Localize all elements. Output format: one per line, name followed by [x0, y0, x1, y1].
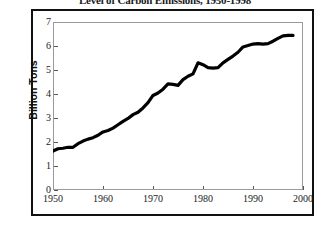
x-tick-mark-2000 — [303, 186, 304, 190]
y-tick-label-7: 7 — [33, 17, 51, 27]
y-tick-label-1: 1 — [33, 161, 51, 171]
carbon-emissions-chart: Level of Carbon Emissions, 1950-1998 Bil… — [0, 0, 330, 226]
plot-area — [53, 22, 303, 190]
y-tick-label-6: 6 — [33, 41, 51, 51]
emissions-line-series — [53, 22, 303, 190]
y-tick-mark-0 — [54, 190, 58, 191]
y-tick-label-4: 4 — [33, 89, 51, 99]
y-tick-label-3: 3 — [33, 113, 51, 123]
x-tick-label-1960: 1960 — [83, 194, 123, 204]
x-tick-label-1970: 1970 — [133, 194, 173, 204]
chart-title: Level of Carbon Emissions, 1950-1998 — [0, 0, 330, 6]
x-tick-label-1950: 1950 — [33, 194, 73, 204]
x-tick-label-1980: 1980 — [183, 194, 223, 204]
y-tick-label-2: 2 — [33, 137, 51, 147]
y-tick-label-5: 5 — [33, 65, 51, 75]
x-tick-label-1990: 1990 — [233, 194, 273, 204]
x-tick-label-2000: 2000 — [283, 194, 323, 204]
